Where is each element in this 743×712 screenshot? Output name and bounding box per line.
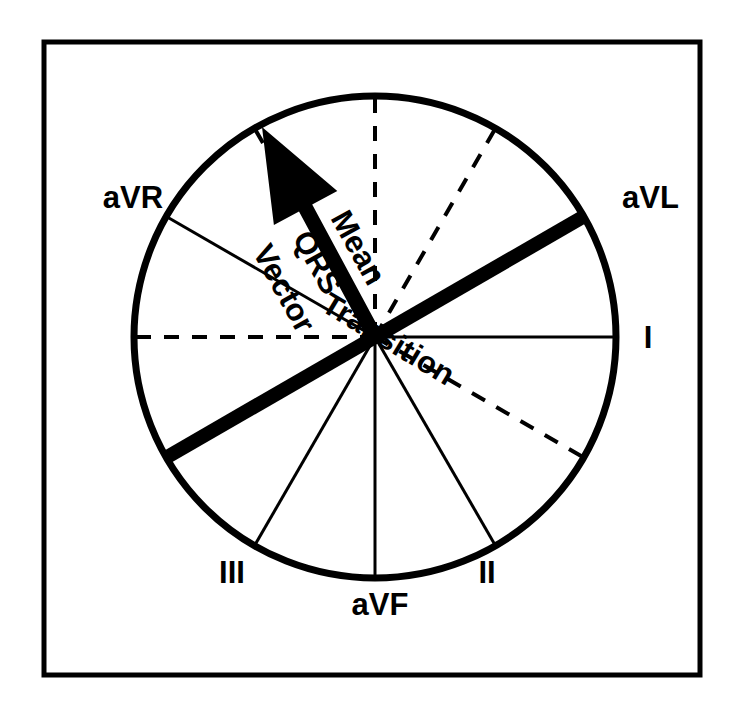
lead-label-avr: aVR [103,180,163,215]
diagram-canvas: IIIaVFIIIaVRaVL Mean QRS Vector Transiti… [0,0,743,712]
lead-label-i: I [644,320,653,355]
lead-label-iii: III [219,555,245,590]
lead-label-ii: II [478,555,495,590]
hexaxial-diagram-figure: IIIaVFIIIaVRaVL Mean QRS Vector Transiti… [0,0,743,712]
lead-label-avf: aVF [352,587,409,622]
lead-label-avl: aVL [622,180,679,215]
